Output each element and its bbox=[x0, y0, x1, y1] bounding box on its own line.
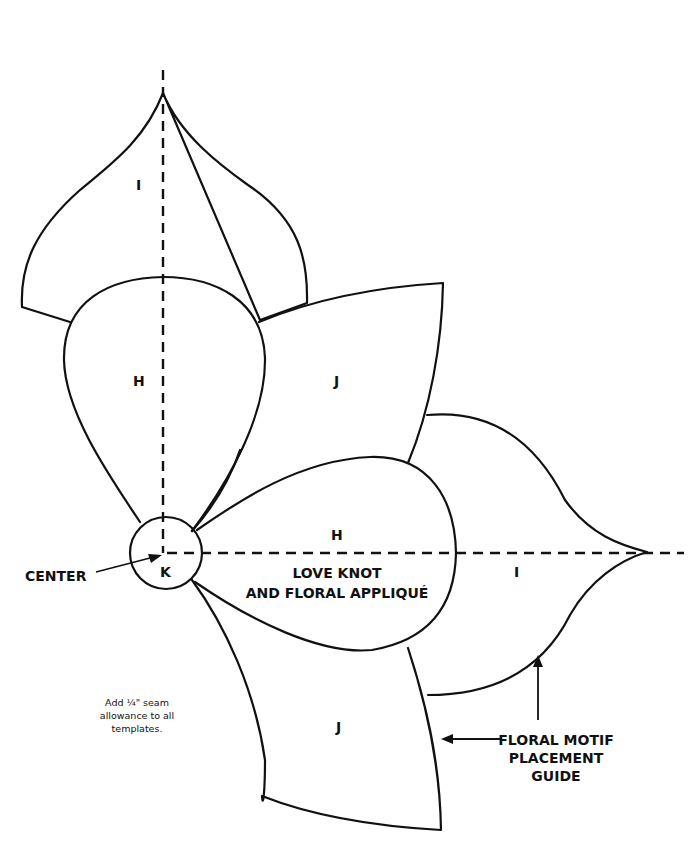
center-arrow-line bbox=[96, 558, 150, 572]
guide-callout-line2: PLACEMENT bbox=[509, 750, 604, 766]
guide-callout-line3: GUIDE bbox=[531, 768, 580, 784]
floral-template-diagram: I H J H I J K LOVE KNOT AND FLORAL APPLI… bbox=[0, 0, 694, 843]
guide-arrowhead-left-icon bbox=[441, 734, 453, 744]
piece-j-top-outline bbox=[192, 283, 443, 531]
pattern-title-line1: LOVE KNOT bbox=[292, 565, 382, 581]
piece-i-top-outline bbox=[22, 93, 307, 322]
seam-note-line3: templates. bbox=[112, 723, 163, 734]
piece-h-top-outline bbox=[64, 277, 265, 531]
seam-note-line1: Add ¼" seam bbox=[105, 697, 169, 708]
pattern-title-line2: AND FLORAL APPLIQUÉ bbox=[246, 585, 429, 601]
piece-label-i-top: I bbox=[136, 177, 141, 193]
piece-label-h-top: H bbox=[133, 373, 145, 389]
guide-callout-line1: FLORAL MOTIF bbox=[498, 732, 613, 748]
seam-note-line2: allowance to all bbox=[100, 710, 174, 721]
piece-label-j-top: J bbox=[333, 373, 339, 389]
piece-j-bottom-outline bbox=[192, 580, 441, 830]
piece-label-j-bottom: J bbox=[335, 719, 341, 735]
piece-label-h-right: H bbox=[331, 527, 343, 543]
center-callout-label: CENTER bbox=[25, 568, 87, 584]
piece-i-right-outline bbox=[427, 414, 647, 695]
piece-label-k: K bbox=[160, 564, 172, 580]
center-arrowhead-icon bbox=[148, 554, 162, 563]
piece-label-i-right: I bbox=[514, 564, 519, 580]
